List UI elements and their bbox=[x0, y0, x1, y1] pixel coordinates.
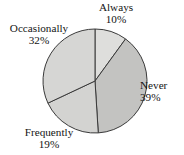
pie-label-occasionally: Occasionally 32% bbox=[1, 22, 77, 46]
pie-label-always-name: Always bbox=[86, 1, 146, 13]
pie-label-never: Never 39% bbox=[140, 79, 184, 103]
pie-label-occasionally-name: Occasionally bbox=[1, 22, 77, 34]
pie-chart-figure: Always 10% Never 39% Frequently 19% Occa… bbox=[0, 0, 184, 155]
pie-label-never-value: 39% bbox=[140, 91, 184, 103]
pie-label-frequently-value: 19% bbox=[14, 138, 84, 150]
pie-label-occasionally-value: 32% bbox=[1, 34, 77, 46]
pie-label-never-name: Never bbox=[140, 79, 184, 91]
pie-label-always: Always 10% bbox=[86, 1, 146, 25]
pie-label-always-value: 10% bbox=[86, 13, 146, 25]
pie-label-frequently-name: Frequently bbox=[14, 126, 84, 138]
pie-label-frequently: Frequently 19% bbox=[14, 126, 84, 150]
